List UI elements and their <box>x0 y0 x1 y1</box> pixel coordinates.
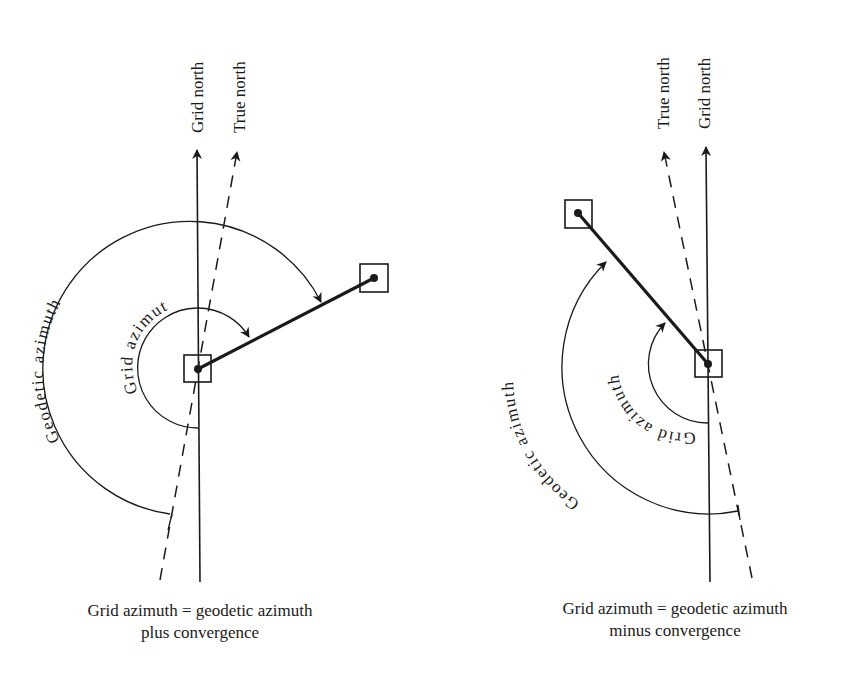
left-caption-line2: plus convergence <box>40 622 360 644</box>
left-geodetic-azimuth-label: Geodetic azimuth <box>28 295 65 447</box>
left-geodetic-azimuth-arc <box>43 221 321 514</box>
left-origin-point-icon <box>194 365 202 373</box>
right-grid-azimuth-label: Grid azimuth <box>603 373 696 449</box>
right-grid-azimuth-arc <box>648 323 708 423</box>
azimuth-convergence-figure: Grid north True north Geodetic azimuth G… <box>0 0 846 675</box>
left-grid-azimuth-arc <box>138 308 249 428</box>
right-geodetic-azimuth-arc <box>562 262 738 514</box>
right-caption-line1: Grid azimuth = geodetic azimuth <box>515 598 835 620</box>
right-caption-line2: minus convergence <box>515 620 835 642</box>
left-bearing-line <box>198 278 374 369</box>
right-diagram: True north Grid north Geodetic azimuth G… <box>498 57 752 582</box>
right-geodetic-azimuth-label: Geodetic azimuth <box>498 380 582 514</box>
right-caption: Grid azimuth = geodetic azimuth minus co… <box>515 598 835 642</box>
left-caption: Grid azimuth = geodetic azimuth plus con… <box>40 600 360 644</box>
left-caption-line1: Grid azimuth = geodetic azimuth <box>40 600 360 622</box>
left-diagram: Grid north True north Geodetic azimuth G… <box>0 0 388 582</box>
left-true-north-label: True north <box>230 61 249 133</box>
right-bearing-line <box>578 213 708 364</box>
left-target-point-icon <box>370 274 378 282</box>
right-grid-north-label: Grid north <box>695 57 714 129</box>
right-origin-point-icon <box>704 360 712 368</box>
right-target-point-icon <box>574 209 582 217</box>
right-true-north-label: True north <box>654 57 673 129</box>
left-grid-north-label: Grid north <box>188 61 207 133</box>
